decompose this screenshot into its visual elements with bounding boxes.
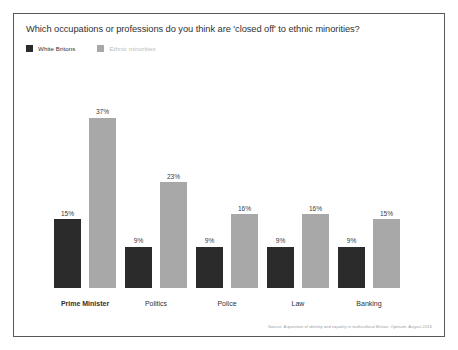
bar[interactable] <box>231 214 258 288</box>
bar-column: 23% <box>160 88 187 288</box>
bar-column: 15% <box>373 88 400 288</box>
bar[interactable] <box>338 247 365 288</box>
bar[interactable] <box>267 247 294 288</box>
bar[interactable] <box>302 214 329 288</box>
bar-column: 9% <box>338 88 365 288</box>
bar-group-bars: 9%16% <box>196 88 258 288</box>
bar-group-bars: 9%15% <box>338 88 400 288</box>
bar-value-label: 37% <box>96 108 109 115</box>
bar-value-label: 9% <box>347 237 357 244</box>
category-label: Banking <box>338 300 400 307</box>
bar-column: 16% <box>231 88 258 288</box>
bar-value-label: 15% <box>380 210 393 217</box>
bar[interactable] <box>196 247 223 288</box>
bar-column: 9% <box>125 88 152 288</box>
bar-column: 37% <box>89 88 116 288</box>
bar-group-bars: 9%16% <box>267 88 329 288</box>
bar-column: 15% <box>54 88 81 288</box>
category-label: Politics <box>125 300 187 307</box>
category-label: Police <box>196 300 258 307</box>
bar-column: 9% <box>267 88 294 288</box>
bar-group-bars: 9%23% <box>125 88 187 288</box>
bar-group-bars: 15%37% <box>54 88 116 288</box>
bar[interactable] <box>125 247 152 288</box>
chart-card: Which occupations or professions do you … <box>13 13 445 337</box>
category-label: Law <box>267 300 329 307</box>
bar-column: 16% <box>302 88 329 288</box>
bar-value-label: 16% <box>309 205 322 212</box>
bar-value-label: 9% <box>276 237 286 244</box>
bar-chart-plot-area: 15%37%Prime Minister9%23%Politics9%16%Po… <box>14 14 446 338</box>
bar-column: 9% <box>196 88 223 288</box>
category-label: Prime Minister <box>54 300 116 307</box>
bar-value-label: 15% <box>61 210 74 217</box>
bar[interactable] <box>54 219 81 288</box>
bar[interactable] <box>160 182 187 288</box>
bar[interactable] <box>89 118 116 288</box>
bar-value-label: 23% <box>167 173 180 180</box>
bar[interactable] <box>373 219 400 288</box>
bar-value-label: 9% <box>205 237 215 244</box>
source-note: Source: A question of identity and equal… <box>268 324 432 329</box>
bar-value-label: 16% <box>238 205 251 212</box>
bar-value-label: 9% <box>134 237 144 244</box>
